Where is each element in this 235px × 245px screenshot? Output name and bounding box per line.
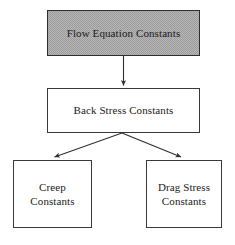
node-back-stress-constants[interactable]: Back Stress Constants xyxy=(47,88,200,133)
node-back-stress-label: Back Stress Constants xyxy=(71,103,177,117)
node-drag-stress-constants[interactable]: Drag Stress Constants xyxy=(146,160,222,228)
edge-back-to-creep xyxy=(55,133,123,157)
node-creep-label: Creep Constants xyxy=(27,180,77,208)
edge-back-to-drag xyxy=(122,133,181,157)
node-drag-stress-label: Drag Stress Constants xyxy=(155,180,213,208)
node-creep-constants[interactable]: Creep Constants xyxy=(13,160,92,228)
node-flow-equation-label: Flow Equation Constants xyxy=(64,26,184,40)
node-flow-equation-constants[interactable]: Flow Equation Constants xyxy=(47,10,200,56)
diagram-canvas: Flow Equation Constants Back Stress Cons… xyxy=(0,0,235,245)
